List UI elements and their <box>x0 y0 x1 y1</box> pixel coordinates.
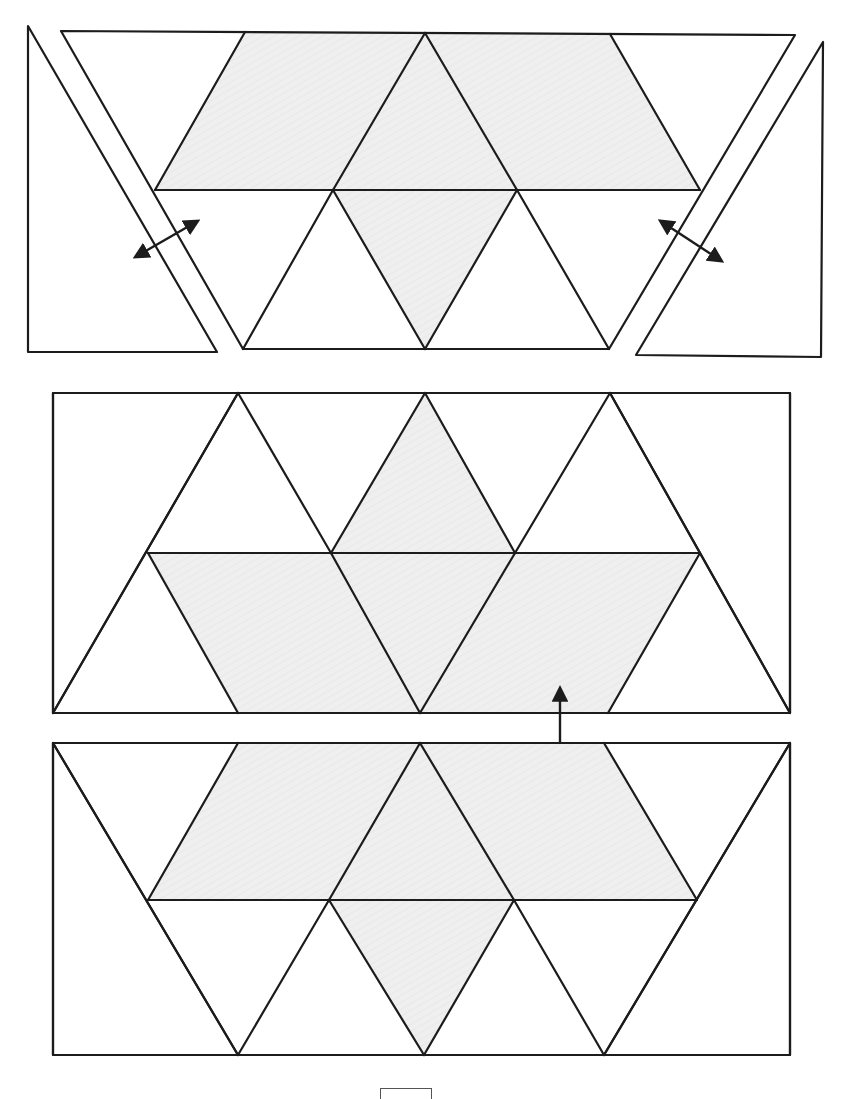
page-number-box <box>380 1088 432 1099</box>
panel-step-2-middle <box>53 393 790 768</box>
seam-line <box>514 900 604 1055</box>
panel-step-1-top <box>28 26 823 357</box>
seam-line <box>515 393 610 553</box>
seam-line <box>243 190 333 349</box>
dotted-corner-triangle <box>636 42 823 357</box>
seam-line <box>238 900 329 1055</box>
seam-line <box>238 393 331 553</box>
panel-step-3-bottom <box>53 743 790 1055</box>
seam-line <box>517 190 609 349</box>
